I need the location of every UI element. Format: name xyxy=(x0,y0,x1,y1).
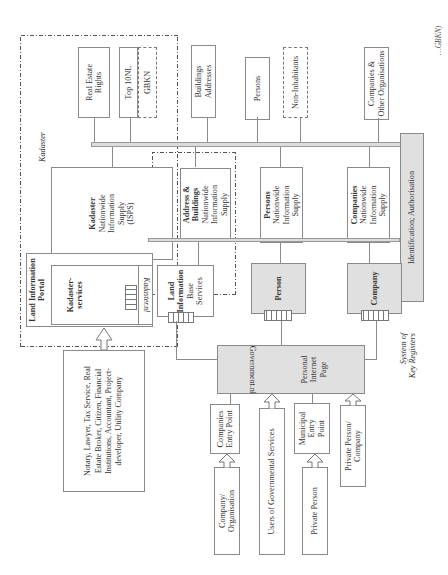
connector xyxy=(94,118,95,145)
supply-line: (ISPS) xyxy=(126,203,135,225)
kadaster-supply-title: Kadaster xyxy=(88,197,97,229)
private-person-company: Private Person/ Company xyxy=(340,405,366,487)
company-organisation: Company/ Organisation xyxy=(214,467,240,555)
land-information-base-services: Land Information Base Services xyxy=(157,265,214,317)
land-info-queue xyxy=(168,312,194,323)
kadaster-region-label: Kadaster xyxy=(38,132,47,162)
top-data-bus xyxy=(91,142,402,147)
register-top10nl: Top 10NL xyxy=(119,47,138,118)
portal-title-line1: Land Information xyxy=(28,253,37,327)
identification-authorisation: Identification; Authorisation xyxy=(400,133,424,302)
real-estate-rights-line2: Rights xyxy=(94,72,103,93)
company-org-line1: Company/ xyxy=(218,494,227,528)
kadaster-nl-label: Kadaster.nl xyxy=(141,278,150,312)
arrow-up-icon xyxy=(95,327,113,350)
portal-title-line2: Portal xyxy=(37,253,46,327)
municipal-line1: Municipal xyxy=(298,412,307,446)
supply-line: Information xyxy=(282,185,291,224)
private-person-company-line2: Company xyxy=(353,430,362,462)
connector xyxy=(176,359,218,360)
government-nl-portal: Government.nl Personal Internet Page xyxy=(217,345,365,394)
private-person-company-line1: Private Person/ xyxy=(344,421,353,471)
supply-line: Information xyxy=(210,185,219,224)
companies-entry-line2: Entry Point xyxy=(225,410,234,448)
users-gov-label: Users of Governmental Services xyxy=(267,428,276,534)
kadaster-services-queue xyxy=(125,285,137,310)
company-queue xyxy=(361,310,389,321)
supply-line: Information xyxy=(107,194,116,233)
connector xyxy=(130,118,131,145)
government-nl-label: Government.nl xyxy=(248,345,257,393)
register-non-inhabitants: Non-Inhabitants xyxy=(283,47,308,118)
companies-supply-title: Companies xyxy=(350,185,359,224)
arrow-up-icon xyxy=(218,453,236,468)
kadaster-nationwide-supply: Kadaster Nationwide Information Supply (… xyxy=(51,167,173,260)
second-data-bus xyxy=(148,238,400,242)
supply-line: Information xyxy=(369,185,378,224)
professional-users-box: Notary, Lawyer, Tax Service, Real Estate… xyxy=(63,350,145,492)
private-person: Private Person xyxy=(302,467,328,555)
register-buildings-addresses: Buildings Addresses xyxy=(191,45,216,118)
professional-users-text: Notary, Lawyer, Tax Service, Real Estate… xyxy=(83,359,125,483)
services-label: Services xyxy=(195,277,204,305)
key-registers-line: Key Registers xyxy=(408,333,417,385)
figure-caption-fragment: …GBKN) xyxy=(434,26,443,55)
personal-label: Personal xyxy=(300,355,309,383)
arrow-up-icon xyxy=(263,393,281,409)
kadaster-services-line2: services xyxy=(75,281,84,308)
page-label: Page xyxy=(319,355,328,383)
non-inhabitants-label: Non-Inhabitants xyxy=(291,56,300,109)
arrow-up-icon xyxy=(306,453,324,468)
connector xyxy=(312,394,313,403)
connector xyxy=(369,147,370,167)
supply-line: Supply xyxy=(291,193,300,216)
supply-line: Nationwide xyxy=(98,194,107,232)
municipal-line2: Entry xyxy=(307,419,316,437)
connector xyxy=(195,147,196,167)
personal-internet-page: Personal Internet Page xyxy=(300,355,328,383)
register-gbkn: GBKN xyxy=(138,47,157,118)
supply-line: Nationwide xyxy=(201,185,210,223)
address-title: Address & xyxy=(182,186,191,223)
person-label: Person xyxy=(274,276,283,300)
register-real-estate-rights: Real Estate Rights xyxy=(78,47,110,118)
buildings-title: Buildings xyxy=(191,188,200,221)
municipal-entry-point: Municipal Entry Point xyxy=(294,403,330,454)
connector xyxy=(300,118,301,145)
companies-entry-point: Companies Entry Point xyxy=(210,404,240,454)
kadaster-services-line1: Kadaster- xyxy=(66,278,75,313)
connector xyxy=(176,321,177,360)
identification-label: Identification; Authorisation xyxy=(407,171,416,264)
register-companies-other: Companies & Other Organisations xyxy=(364,47,389,120)
top10nl-label: Top 10NL xyxy=(124,66,133,100)
connector xyxy=(378,118,379,145)
supply-line: Nationwide xyxy=(359,186,368,224)
portal-title: Land Information Portal xyxy=(28,253,47,327)
connector xyxy=(376,321,377,360)
person-register: Person xyxy=(251,263,306,314)
supply-line: Supply xyxy=(220,193,229,216)
register-persons: Persons xyxy=(245,57,270,120)
supply-line: Supply xyxy=(117,202,126,225)
connector xyxy=(280,147,281,167)
base-label: Base xyxy=(186,283,195,299)
company-register: Company xyxy=(347,263,402,314)
internet-label: Internet xyxy=(309,355,318,383)
land-info-title2: Information xyxy=(176,270,185,313)
connector xyxy=(257,117,258,145)
private-person-label: Private Person xyxy=(310,487,319,535)
municipal-line3: Point xyxy=(317,420,326,437)
gbkn-label: GBKN xyxy=(143,71,152,94)
arrow-up-icon xyxy=(344,393,362,406)
address-buildings-supply: Address & Buildings Nationwide Informati… xyxy=(180,168,231,241)
company-label: Company xyxy=(370,271,379,305)
companies-and-label: Companies & xyxy=(367,61,376,106)
buildings-label: Buildings xyxy=(194,66,203,98)
supply-line: Supply xyxy=(378,193,387,216)
connector xyxy=(230,394,231,404)
addresses-label: Addresses xyxy=(204,65,213,99)
person-queue xyxy=(264,310,292,321)
companies-nationwide-supply: Companies Nationwide Information Supply xyxy=(347,167,390,243)
kadaster-nl-strip: Kadaster.nl xyxy=(138,265,153,325)
users-of-governmental-services: Users of Governmental Services xyxy=(259,408,285,555)
